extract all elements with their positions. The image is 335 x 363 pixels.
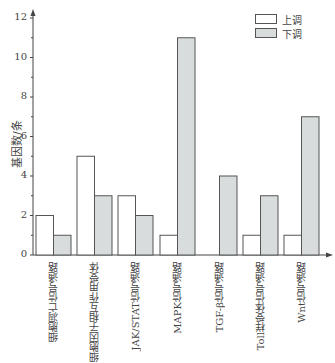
x-tick-label: TGF-β信号通路 — [214, 262, 226, 332]
y-tick-label: 4 — [11, 169, 27, 180]
x-tick-label: JAK/STAT信号通路 — [130, 262, 142, 350]
bar-down — [261, 196, 279, 255]
legend-item-down: 下调 — [255, 26, 302, 40]
bar-up — [160, 235, 178, 255]
x-tick-label: MAPK信号通路 — [172, 262, 184, 334]
bar-up — [77, 156, 95, 255]
legend-swatch-up — [255, 14, 277, 24]
y-tick-label: 6 — [11, 130, 27, 141]
legend: 上调 下调 — [255, 12, 302, 40]
bar-down — [220, 176, 238, 255]
y-tick-label: 0 — [11, 248, 27, 259]
x-tick-label: Toll样受体信号通路 — [255, 262, 267, 350]
bar-down — [136, 216, 154, 256]
bar-up — [243, 235, 261, 255]
bar-down — [302, 117, 320, 255]
bar-up — [284, 235, 302, 255]
y-tick-label: 10 — [11, 51, 27, 62]
x-tick-label: 细胞凋亡信号通路 — [48, 262, 60, 342]
y-tick-label: 12 — [11, 11, 27, 22]
bar-down — [54, 235, 72, 255]
legend-label-down: 下调 — [282, 26, 302, 41]
bar-down — [178, 38, 196, 255]
y-tick-label: 2 — [11, 209, 27, 220]
legend-label-up: 上调 — [282, 12, 302, 27]
x-tick-label: Wnt信号通路 — [296, 262, 308, 323]
x-tick-label: 细胞因子相互作用受体 — [89, 262, 101, 362]
bar-up — [36, 216, 54, 256]
x-axis-arrow-icon — [326, 253, 333, 258]
bar-down — [95, 196, 113, 255]
legend-item-up: 上调 — [255, 12, 302, 26]
y-tick-label: 8 — [11, 90, 27, 101]
bar-up — [118, 196, 136, 255]
y-axis-arrow-icon — [31, 9, 36, 16]
legend-swatch-down — [255, 28, 277, 38]
